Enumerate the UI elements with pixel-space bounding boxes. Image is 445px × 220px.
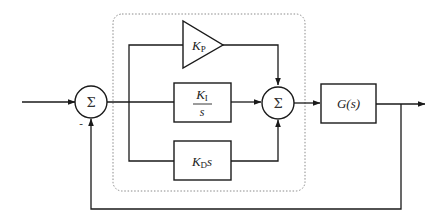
feedback-minus-sign: - [79,117,83,129]
pid-summing-junction: Σ [262,87,294,119]
sigma-symbol: Σ [273,96,282,111]
kp-output-line [223,45,278,85]
kp-sub: P [201,44,206,54]
plant-block: G(s) [321,84,376,123]
integral-block: KI s [174,83,231,122]
ki-sub: I [205,93,208,103]
kd-var: s [207,154,212,169]
proportional-gain-block: KP [183,21,223,68]
plant-label: G(s) [337,96,360,111]
error-summing-junction: Σ [75,86,107,118]
derivative-block: KDs [174,141,231,180]
ki-denominator: s [200,105,205,119]
sigma-symbol: Σ [86,95,95,110]
kd-output-line [231,120,278,161]
pid-block-diagram: Σ - KP KI s KDs Σ G(s) [0,0,445,220]
